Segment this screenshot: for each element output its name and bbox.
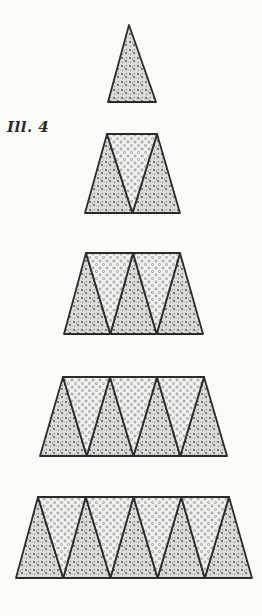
triangle-row-5 [16, 497, 252, 578]
triangle-pyramid-illustration [0, 0, 262, 616]
triangle-row-1 [108, 25, 156, 102]
floral-triangle [108, 25, 156, 102]
triangle-row-4 [40, 377, 227, 456]
triangle-rows [16, 25, 252, 578]
triangle-row-3 [64, 253, 203, 334]
triangle-row-2 [85, 134, 180, 213]
